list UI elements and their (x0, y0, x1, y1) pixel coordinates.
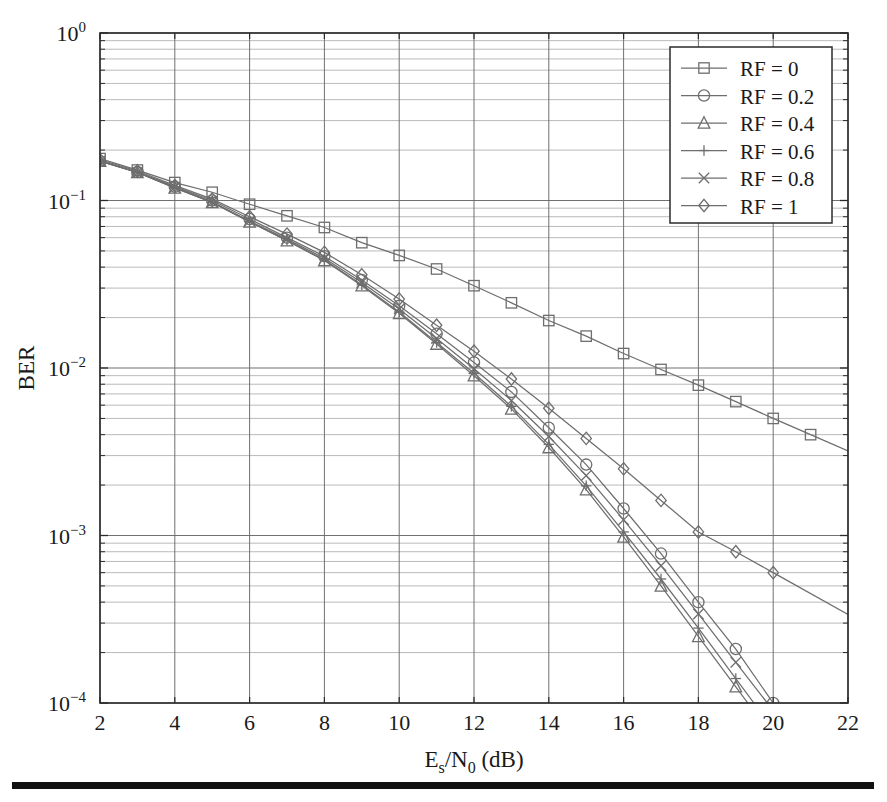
x-axis-label-mid: /N (445, 747, 468, 772)
x-tick-label: 2 (95, 710, 106, 735)
x-tick-label: 6 (244, 710, 255, 735)
bottom-separator-rule (12, 782, 874, 789)
legend-label: RF = 0.2 (740, 85, 814, 109)
y-tick-label-base: 10 (48, 524, 70, 549)
x-axis-label-tail: (dB) (476, 747, 524, 772)
y-tick-label-base: 10 (57, 21, 79, 46)
y-tick-label-exponent: −3 (70, 522, 86, 538)
y-tick-label: 10−4 (48, 689, 86, 716)
x-tick-label: 4 (169, 710, 180, 735)
y-tick-label-base: 10 (48, 691, 70, 716)
legend-label: RF = 0.8 (740, 167, 814, 191)
x-tick-label: 16 (613, 710, 635, 735)
x-tick-label: 18 (687, 710, 709, 735)
y-tick-label: 10−1 (48, 187, 86, 214)
y-tick-label-exponent: 0 (79, 19, 87, 35)
ber-vs-esn0-chart: 24681012141618202210010−110−210−310−4BER… (0, 0, 887, 802)
x-axis-label-sub-0: 0 (468, 759, 476, 776)
y-tick-label-exponent: −4 (70, 689, 86, 705)
x-tick-label: 14 (538, 710, 560, 735)
legend-label: RF = 1 (740, 195, 799, 219)
y-tick-label: 10−2 (48, 354, 86, 381)
y-tick-label: 100 (57, 19, 87, 46)
figure-container: 24681012141618202210010−110−210−310−4BER… (0, 0, 887, 802)
x-tick-label: 8 (319, 710, 330, 735)
x-tick-label: 22 (837, 710, 859, 735)
legend[interactable]: RF = 0RF = 0.2RF = 0.4RF = 0.6RF = 0.8RF… (670, 47, 832, 223)
x-axis-label-lead: E (424, 747, 438, 772)
x-tick-labels: 246810121416182022 (95, 710, 860, 735)
y-tick-label: 10−3 (48, 522, 86, 549)
x-tick-label: 10 (388, 710, 410, 735)
y-tick-label-base: 10 (48, 189, 70, 214)
legend-label: RF = 0.4 (740, 112, 815, 136)
legend-label: RF = 0.6 (740, 140, 814, 164)
y-tick-label-base: 10 (48, 356, 70, 381)
y-tick-labels: 10010−110−210−310−4 (48, 19, 86, 716)
x-axis-label: Es/N0 (dB) (424, 747, 523, 776)
y-axis-label: BER (14, 345, 39, 390)
legend-label: RF = 0 (740, 57, 799, 81)
x-tick-label: 12 (463, 710, 485, 735)
y-tick-label-exponent: −2 (70, 354, 86, 370)
y-tick-label-exponent: −1 (70, 187, 86, 203)
x-tick-label: 20 (762, 710, 784, 735)
